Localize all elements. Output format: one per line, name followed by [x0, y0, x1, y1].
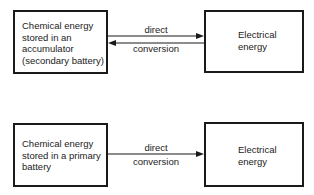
top-forward-arrow-icon	[108, 33, 204, 39]
bottom-forward-arrow-icon	[108, 151, 204, 157]
arrows-layer	[0, 0, 314, 195]
top-backward-arrow-icon	[108, 40, 204, 46]
